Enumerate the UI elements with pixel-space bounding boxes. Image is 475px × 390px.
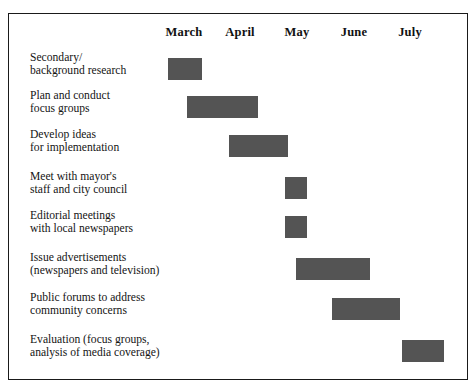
month-label-july: July — [370, 25, 450, 40]
task-label: Plan and conductfocus groups — [30, 89, 110, 115]
task-label-line: staff and city council — [30, 183, 127, 196]
task-label-line: for implementation — [30, 141, 119, 154]
gantt-bar — [296, 258, 370, 280]
task-label-line: background research — [30, 64, 126, 77]
task-label-line: Issue advertisements — [30, 251, 159, 264]
task-label-line: Meet with mayor's — [30, 170, 127, 183]
task-label: Editorial meetingswith local newspapers — [30, 209, 133, 235]
task-label-line: Develop ideas — [30, 128, 119, 141]
gantt-chart: MarchAprilMayJuneJuly Secondary/backgrou… — [0, 0, 475, 390]
task-label-line: community concerns — [30, 304, 145, 317]
task-label-line: Public forums to address — [30, 291, 145, 304]
gantt-bar — [285, 216, 307, 238]
gantt-bar — [402, 340, 444, 362]
task-label-line: Secondary/ — [30, 51, 126, 64]
task-label-line: Plan and conduct — [30, 89, 110, 102]
gantt-bar — [168, 58, 202, 80]
task-label-line: with local newspapers — [30, 222, 133, 235]
gantt-bar — [187, 96, 258, 118]
task-label: Public forums to addresscommunity concer… — [30, 291, 145, 317]
task-label-line: analysis of media coverage) — [30, 346, 160, 359]
task-label-line: focus groups — [30, 102, 110, 115]
gantt-bar — [229, 135, 288, 157]
task-label-line: Evaluation (focus groups, — [30, 333, 160, 346]
task-label: Develop ideasfor implementation — [30, 128, 119, 154]
task-label: Issue advertisements(newspapers and tele… — [30, 251, 159, 277]
task-label: Secondary/background research — [30, 51, 126, 77]
gantt-bar — [285, 177, 307, 199]
task-label-line: (newspapers and television) — [30, 264, 159, 277]
gantt-bar — [332, 298, 400, 320]
task-label: Meet with mayor'sstaff and city council — [30, 170, 127, 196]
task-label: Evaluation (focus groups,analysis of med… — [30, 333, 160, 359]
task-label-line: Editorial meetings — [30, 209, 133, 222]
